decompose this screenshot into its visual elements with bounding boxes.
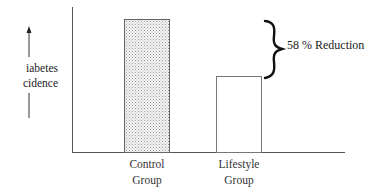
bar-lifestyle-group <box>217 77 262 153</box>
x-label-control-line-1: Control <box>107 156 187 172</box>
reduction-brace-icon <box>265 21 282 78</box>
y-axis-label-line-1: iabetes <box>0 62 58 75</box>
x-label-lifestyle: Lifestyle Group <box>199 156 279 188</box>
x-label-lifestyle-line-1: Lifestyle <box>199 156 279 172</box>
chart-canvas <box>0 0 379 195</box>
x-label-lifestyle-line-2: Group <box>199 172 279 188</box>
reduction-annotation: 58 % Reduction <box>287 39 364 52</box>
bar-control-group <box>125 20 170 153</box>
y-axis-up-arrow-icon <box>27 26 32 57</box>
x-label-control: Control Group <box>107 156 187 188</box>
x-label-control-line-2: Group <box>107 172 187 188</box>
y-axis-label-line-2: cidence <box>0 77 58 90</box>
